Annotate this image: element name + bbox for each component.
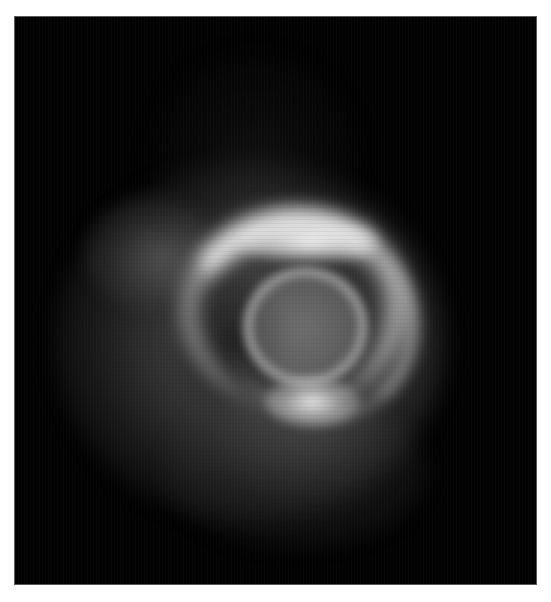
lower-tail-glow: [165, 397, 425, 547]
upper-left-wing: [85, 197, 215, 307]
bright-bottom-blob: [265, 377, 360, 427]
dark-inner-pocket: [175, 277, 285, 407]
scanline-noise-texture: [15, 17, 536, 584]
image-description: Grayscale image of a luminous swirling s…: [0, 0, 1, 1]
image-frame: [14, 16, 537, 585]
bright-top-arc: [170, 196, 420, 419]
outer-halo: [55, 162, 445, 522]
top-arc-core: [240, 222, 380, 262]
outer-right-rim: [230, 232, 420, 422]
upper-haze: [155, 57, 355, 257]
inner-ring: [243, 267, 368, 387]
